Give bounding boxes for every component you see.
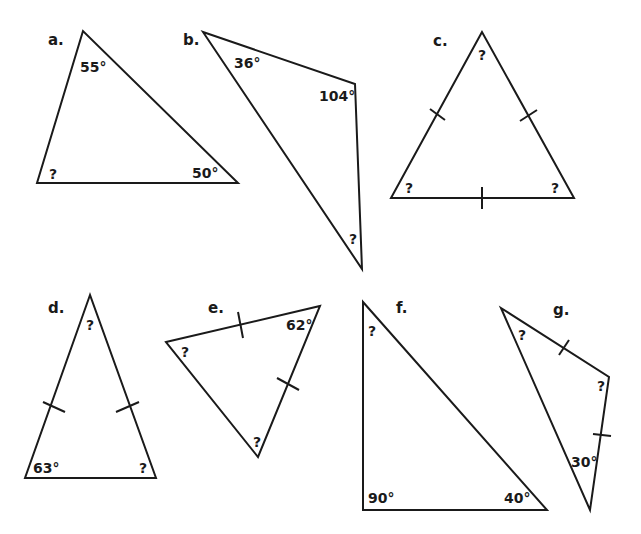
triangle-d: d.?63°? — [25, 295, 156, 478]
triangle-label: c. — [433, 32, 448, 50]
unknown-angle: ? — [478, 47, 486, 63]
triangle-label: d. — [48, 299, 64, 317]
angle-measure: 36° — [234, 55, 260, 71]
congruence-tick-mark — [593, 434, 611, 436]
angle-measure: 50° — [192, 165, 218, 181]
angle-measure: 63° — [33, 460, 59, 476]
triangle-worksheet: a.55°?50°b.36°104°?c.???d.?63°?e.62°??f.… — [0, 0, 641, 534]
triangle-b: b.36°104°? — [183, 31, 362, 269]
unknown-angle: ? — [597, 378, 605, 394]
triangle-label: e. — [208, 299, 224, 317]
angle-measure: 62° — [286, 317, 312, 333]
unknown-angle: ? — [49, 166, 57, 182]
angle-measure: 104° — [319, 88, 355, 104]
congruence-tick-mark — [116, 402, 139, 412]
angle-measure: 30° — [571, 454, 597, 470]
triangle-c: c.??? — [391, 32, 574, 209]
triangle-g: g.??30° — [501, 301, 611, 510]
unknown-angle: ? — [253, 434, 261, 450]
congruence-tick-mark — [43, 402, 65, 412]
unknown-angle: ? — [551, 180, 559, 196]
unknown-angle: ? — [86, 317, 94, 333]
congruence-tick-mark — [520, 110, 537, 121]
unknown-angle: ? — [368, 323, 376, 339]
unknown-angle: ? — [405, 180, 413, 196]
triangle-label: f. — [396, 299, 407, 317]
triangle-a: a.55°?50° — [37, 31, 238, 183]
triangle-label: b. — [183, 31, 199, 49]
angle-measure: 40° — [504, 490, 530, 506]
triangle-a-outline — [37, 31, 238, 183]
unknown-angle: ? — [181, 344, 189, 360]
congruence-tick-mark — [277, 378, 299, 390]
congruence-tick-mark — [430, 109, 445, 120]
unknown-angle: ? — [139, 460, 147, 476]
angle-measure: 90° — [368, 490, 394, 506]
triangle-e: e.62°?? — [166, 299, 320, 457]
unknown-angle: ? — [518, 327, 526, 343]
triangle-b-outline — [203, 32, 362, 269]
triangle-label: g. — [553, 301, 569, 319]
congruence-tick-mark — [559, 340, 569, 355]
angle-measure: 55° — [80, 59, 106, 75]
triangle-label: a. — [48, 31, 64, 49]
unknown-angle: ? — [349, 231, 357, 247]
